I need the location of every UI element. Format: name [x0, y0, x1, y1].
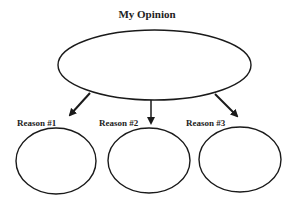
opinion-diagram: [0, 0, 294, 203]
reason-3-label: Reason #3: [186, 118, 225, 128]
reason-1-circle: [16, 128, 96, 194]
reason-2-circle: [108, 128, 190, 193]
opinion-ellipse: [58, 30, 251, 100]
reason-2-label: Reason #2: [99, 118, 138, 128]
diagram-title: My Opinion: [0, 8, 294, 20]
arrow-to-reason-1: [70, 93, 90, 115]
reason-1-label: Reason #1: [17, 118, 56, 128]
reason-3-circle: [199, 127, 281, 192]
arrow-to-reason-3: [215, 94, 237, 116]
